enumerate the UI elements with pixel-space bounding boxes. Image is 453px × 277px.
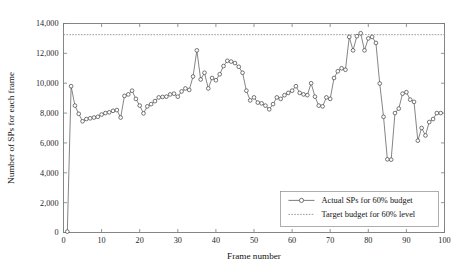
chart-legend[interactable]: Actual SPs for 60% budgetTarget budget f… (281, 192, 439, 227)
data-point-marker (271, 102, 275, 106)
data-point-marker (412, 100, 416, 104)
y-tick-label: 12,000 (36, 49, 59, 58)
data-point-marker (214, 78, 218, 82)
data-point-marker (286, 91, 290, 95)
data-point-marker (256, 101, 260, 105)
x-tick-label: 40 (212, 236, 220, 245)
data-point-marker (157, 96, 161, 100)
x-tick-label: 20 (136, 236, 144, 245)
data-point-marker (218, 72, 222, 76)
data-point-marker (168, 93, 172, 97)
data-point-marker (363, 49, 367, 53)
data-point-marker (96, 115, 100, 119)
data-point-marker (233, 61, 237, 65)
data-point-marker (397, 107, 401, 111)
data-point-marker (359, 31, 363, 35)
y-tick-label: 6,000 (40, 139, 58, 148)
data-point-marker (435, 111, 439, 115)
data-point-marker (420, 126, 424, 130)
line-chart: 02,0004,0006,0008,00010,00012,00014,000 … (0, 0, 453, 277)
data-point-marker (290, 89, 294, 93)
data-point-marker (142, 112, 146, 116)
data-point-marker (104, 111, 108, 115)
data-point-marker (111, 109, 115, 113)
data-point-marker (73, 104, 77, 108)
x-axis-tick-labels: 0102030405060708090100 (61, 236, 450, 245)
data-point-marker (355, 34, 359, 38)
data-point-marker (88, 116, 92, 120)
x-tick-label: 0 (61, 236, 65, 245)
x-tick-label: 90 (402, 236, 410, 245)
x-tick-label: 70 (326, 236, 334, 245)
data-point-marker (176, 95, 180, 99)
data-point-marker (340, 66, 344, 70)
data-point-marker (283, 93, 287, 97)
y-tick-label: 4,000 (40, 169, 58, 178)
x-tick-label: 80 (364, 236, 372, 245)
data-point-marker (267, 107, 271, 111)
x-tick-label: 30 (174, 236, 182, 245)
data-point-marker (180, 90, 184, 94)
x-tick-label: 10 (98, 236, 106, 245)
data-point-marker (195, 49, 199, 53)
data-point-marker (172, 92, 176, 96)
data-point-marker (313, 95, 317, 99)
data-point-marker (126, 93, 130, 97)
legend-label: Actual SPs for 60% budget (322, 196, 414, 205)
data-point-marker (149, 102, 153, 106)
chart-figure: 02,0004,0006,0008,00010,00012,00014,000 … (0, 0, 453, 277)
data-point-marker (439, 111, 443, 115)
data-point-marker (344, 68, 348, 72)
data-point-marker (393, 111, 397, 115)
data-point-marker (161, 95, 165, 99)
data-point-marker (302, 93, 306, 97)
data-point-marker (225, 59, 229, 63)
data-point-marker (405, 90, 409, 94)
data-point-marker (351, 49, 355, 53)
data-point-marker (153, 99, 157, 103)
data-point-marker (321, 105, 325, 109)
data-point-marker (386, 158, 390, 162)
data-point-marker (332, 76, 336, 80)
data-point-marker (294, 84, 298, 88)
data-point-marker (134, 97, 138, 101)
data-point-marker (317, 104, 321, 108)
data-point-marker (416, 139, 420, 143)
y-tick-label: 10,000 (36, 79, 59, 88)
y-tick-label: 2,000 (40, 199, 58, 208)
x-axis-title: Frame number (227, 251, 281, 261)
data-point-marker (309, 81, 313, 85)
data-point-marker (431, 117, 435, 121)
data-point-marker (138, 104, 142, 108)
data-point-marker (85, 117, 89, 121)
data-point-marker (100, 113, 104, 117)
data-point-marker (389, 158, 393, 162)
x-tick-label: 60 (288, 236, 296, 245)
data-point-marker (248, 99, 252, 103)
data-point-marker (245, 89, 249, 93)
data-point-marker (210, 76, 214, 80)
data-point-marker (260, 102, 264, 106)
data-point-marker (130, 89, 134, 93)
data-point-marker (222, 64, 226, 68)
data-point-marker (187, 88, 191, 92)
data-point-marker (370, 35, 374, 39)
data-point-marker (336, 69, 340, 73)
data-point-marker (382, 115, 386, 119)
data-point-marker (199, 78, 203, 82)
data-point-marker (328, 97, 332, 101)
y-axis-title: Number of SPs for each frame (6, 72, 16, 184)
data-point-marker (279, 97, 283, 101)
data-point-marker (378, 82, 382, 86)
data-point-marker (366, 37, 370, 41)
data-point-marker (408, 98, 412, 102)
data-point-marker (229, 60, 233, 64)
data-point-marker (206, 87, 210, 91)
data-point-marker (65, 230, 69, 234)
data-point-marker (237, 65, 241, 69)
data-point-marker (123, 94, 127, 98)
data-point-marker (203, 71, 207, 75)
data-point-marker (305, 93, 309, 97)
data-point-marker (69, 84, 73, 88)
y-tick-label: 14,000 (36, 19, 59, 28)
